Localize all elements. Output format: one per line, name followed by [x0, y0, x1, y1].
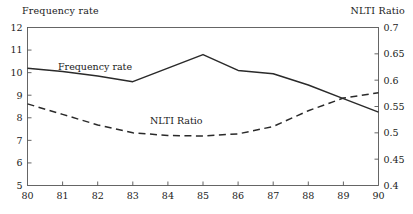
right-tick-label: 0.5 [384, 127, 399, 138]
x-tick-label: 81 [57, 190, 69, 201]
right-tick-label: 0.45 [384, 154, 405, 165]
x-axis-ticks: 8081828384858687888990 [21, 182, 384, 201]
left-tick-label: 7 [16, 135, 22, 146]
right-axis-ticks: 0.40.450.50.550.60.650.7 [375, 22, 405, 191]
x-tick-label: 89 [337, 190, 349, 201]
series-line-2 [28, 93, 379, 136]
inline-label-nlti-ratio: NLTI Ratio [150, 115, 203, 126]
right-tick-label: 0.55 [384, 101, 405, 112]
x-tick-label: 87 [267, 190, 279, 201]
series-inline-labels: Frequency rateNLTI Ratio [58, 61, 203, 126]
x-tick-label: 82 [92, 190, 104, 201]
x-tick-label: 84 [162, 190, 174, 201]
x-tick-label: 86 [232, 190, 244, 201]
x-tick-label: 80 [21, 190, 33, 201]
right-tick-label: 0.4 [384, 180, 399, 191]
left-tick-label: 9 [16, 90, 22, 101]
x-tick-label: 88 [302, 190, 314, 201]
left-axis-ticks: 56789101112 [10, 22, 31, 191]
x-tick-label: 85 [197, 190, 209, 201]
left-tick-label: 12 [10, 22, 22, 33]
x-tick-label: 83 [127, 190, 139, 201]
right-tick-label: 0.7 [384, 22, 399, 33]
plot-frame [28, 28, 379, 186]
x-tick-label: 90 [372, 190, 384, 201]
plot-area: 56789101112 0.40.450.50.550.60.650.7 808… [0, 0, 413, 214]
left-tick-label: 11 [10, 44, 22, 55]
left-tick-label: 6 [16, 157, 22, 168]
right-tick-label: 0.6 [384, 75, 399, 86]
right-tick-label: 0.65 [384, 48, 405, 59]
chart-container: Frequency rate NLTI Ratio 56789101112 0.… [0, 0, 413, 214]
inline-label-frequency-rate: Frequency rate [58, 61, 132, 72]
left-tick-label: 10 [10, 67, 22, 78]
left-tick-label: 8 [16, 112, 22, 123]
